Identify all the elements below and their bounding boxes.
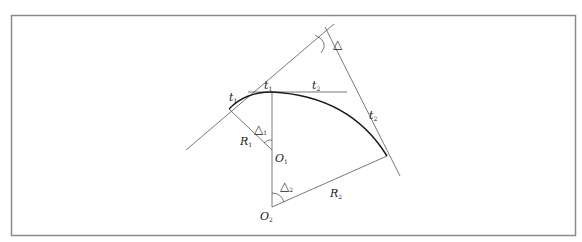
- o2-label: O2: [260, 210, 273, 223]
- t2-right-label: t2: [369, 109, 377, 122]
- t2-top-label: t2: [312, 79, 320, 92]
- curve-arc-2: [272, 92, 387, 156]
- delta1-label: △1: [254, 122, 267, 136]
- t1-left-label: t1: [229, 91, 237, 104]
- o1-label: O1: [275, 152, 288, 165]
- frame-border: [12, 16, 576, 236]
- delta-angle-arc: [315, 35, 324, 53]
- compound-curve-diagram: △ t1 t1 t2 t2 △1 R1 O1 △2 R2 O2: [0, 0, 582, 242]
- delta-label: △: [333, 37, 343, 51]
- r2-label: R2: [329, 187, 342, 200]
- r1-label: R1: [239, 135, 252, 148]
- delta2-angle-arc: [272, 193, 284, 202]
- t1-top-label: t1: [264, 79, 272, 92]
- delta1-angle-arc: [264, 140, 272, 143]
- delta2-label: △2: [280, 179, 293, 193]
